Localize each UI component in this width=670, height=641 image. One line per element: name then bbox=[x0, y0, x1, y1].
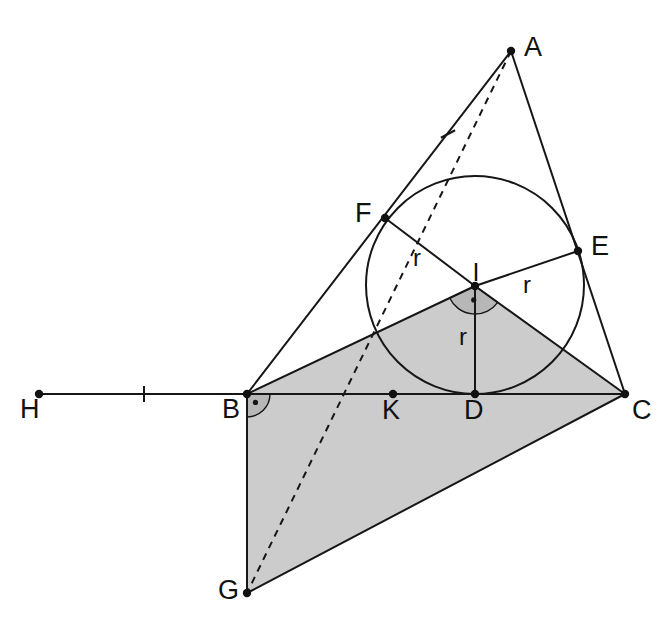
point-label-K: K bbox=[382, 395, 400, 425]
point-label-A: A bbox=[524, 32, 542, 62]
point-label-H: H bbox=[20, 394, 40, 424]
point-label-F: F bbox=[355, 198, 372, 228]
point-label-C: C bbox=[632, 395, 652, 425]
point-label-B: B bbox=[222, 394, 240, 424]
point-label-I: I bbox=[473, 258, 480, 286]
point-label-G: G bbox=[218, 575, 239, 605]
point-dot-B bbox=[243, 390, 251, 398]
angle-dot-at-B bbox=[253, 400, 258, 405]
segment-IF bbox=[385, 218, 475, 286]
point-dot-F bbox=[381, 214, 389, 222]
point-label-D: D bbox=[464, 395, 484, 425]
point-dot-C bbox=[621, 390, 629, 398]
point-dot-E bbox=[574, 247, 582, 255]
shaded-quadrilateral-BICG bbox=[247, 286, 625, 593]
point-dot-A bbox=[507, 47, 515, 55]
radius-label-IE: r bbox=[523, 271, 531, 298]
geometry-svg: AFEIHBKDCG rrr bbox=[0, 0, 670, 641]
radius-label-ID: r bbox=[459, 323, 467, 350]
radius-label-IF: r bbox=[413, 244, 421, 271]
geometry-diagram-canvas: AFEIHBKDCG rrr bbox=[0, 0, 670, 641]
point-label-E: E bbox=[591, 231, 609, 261]
point-dot-G bbox=[243, 589, 251, 597]
